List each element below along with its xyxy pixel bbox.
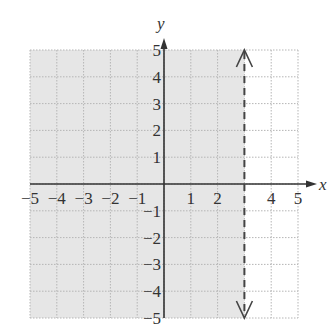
x-tick-label: 5: [294, 189, 303, 208]
y-axis-label: y: [155, 14, 165, 33]
y-tick-label: 4: [153, 68, 162, 87]
y-tick-label: −5: [143, 309, 161, 328]
y-tick-label: −4: [143, 282, 162, 301]
x-tick-label: 4: [267, 189, 276, 208]
y-axis-arrow-icon: [161, 38, 168, 49]
y-tick-label: −2: [143, 229, 161, 248]
x-tick-label: 1: [187, 189, 196, 208]
y-tick-label: −1: [143, 202, 161, 221]
x-tick-label: −4: [48, 189, 67, 208]
y-tick-label: 1: [153, 148, 162, 167]
y-tick-label: 3: [153, 95, 162, 114]
inequality-graph: −5−4−3−2−1124554321−1−2−3−4−5 x y: [0, 0, 335, 329]
x-tick-label: −5: [21, 189, 39, 208]
x-axis-label: x: [318, 175, 327, 194]
x-axis-arrow-icon: [306, 181, 317, 188]
x-tick-label: 2: [213, 189, 222, 208]
y-tick-label: 2: [153, 121, 162, 140]
x-tick-label: −2: [101, 189, 119, 208]
y-tick-label: 5: [153, 41, 162, 60]
x-tick-label: −3: [75, 189, 93, 208]
y-tick-label: −3: [143, 255, 161, 274]
